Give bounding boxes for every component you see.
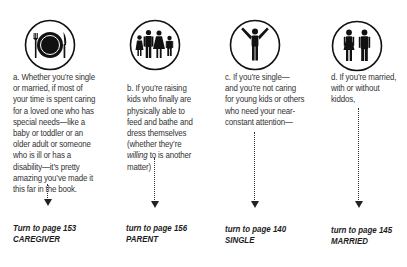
category-label: SINGLE	[225, 235, 286, 246]
couple-icon	[331, 20, 383, 72]
description-text: b. If you’re raising kids who finally ar…	[127, 83, 193, 149]
option-caregiver: a. Whether you’re single or married, if …	[0, 0, 105, 267]
option-single: c. If you’re single— and you’re not cari…	[205, 0, 305, 267]
emphasized-word: willing	[127, 150, 148, 160]
dotted-arrow-icon	[251, 132, 259, 210]
dinner-plate-icon	[24, 19, 76, 71]
family-icon	[129, 19, 181, 71]
turn-to-page: Turn to page 153	[13, 223, 76, 234]
page-reference: turn to page 140 SINGLE	[225, 224, 286, 246]
option-parent: b. If you’re raising kids who finally ar…	[105, 0, 205, 267]
option-description: a. Whether you’re single or married, if …	[13, 72, 116, 195]
category-label: PARENT	[126, 234, 187, 245]
option-married: d. If you’re married, with or without ki…	[305, 0, 407, 267]
dotted-arrow-icon	[44, 184, 52, 208]
page-reference: turn to page 145 MARRIED	[331, 225, 392, 247]
page-reference: Turn to page 153 CAREGIVER	[13, 223, 76, 245]
page-reference: turn to page 156 PARENT	[126, 223, 187, 245]
turn-to-page: turn to page 156	[126, 223, 187, 234]
category-label: CAREGIVER	[13, 234, 76, 245]
dotted-arrow-icon	[151, 158, 159, 210]
single-person-icon	[229, 19, 281, 71]
turn-to-page: turn to page 145	[331, 225, 392, 236]
turn-to-page: turn to page 140	[225, 224, 286, 235]
category-label: MARRIED	[331, 236, 392, 247]
dotted-arrow-icon	[355, 108, 363, 210]
option-description: d. If you’re married, with or without ki…	[331, 72, 407, 106]
